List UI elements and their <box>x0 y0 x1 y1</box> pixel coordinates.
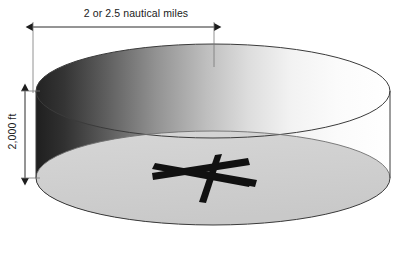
diagram-canvas: 2 or 2.5 nautical miles 2,000 ft <box>0 0 402 256</box>
height-dimension-label: 2,000 ft <box>6 97 19 167</box>
cylinder-body <box>36 44 390 225</box>
radius-dimension-label: 2 or 2.5 nautical miles <box>70 7 202 20</box>
cylinder-diagram <box>0 0 402 256</box>
